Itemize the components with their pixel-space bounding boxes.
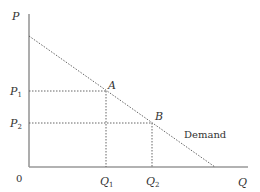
p1-label: P1 (9, 85, 22, 99)
demand-label: Demand (184, 129, 227, 140)
point-a-label: A (107, 79, 116, 92)
demand-diagram: P Q 0 A B P1 P2 Q1 Q2 Demand (0, 0, 260, 192)
point-b-label: B (154, 110, 163, 123)
origin-label: 0 (16, 173, 22, 184)
p2-label: P2 (9, 117, 22, 131)
x-axis-label: Q (238, 176, 247, 189)
q1-label: Q1 (100, 175, 114, 189)
demand-curve (29, 36, 215, 167)
q2-label: Q2 (146, 175, 160, 189)
demand-chart-svg: P Q 0 A B P1 P2 Q1 Q2 Demand (0, 0, 260, 192)
y-axis-label: P (11, 10, 20, 23)
